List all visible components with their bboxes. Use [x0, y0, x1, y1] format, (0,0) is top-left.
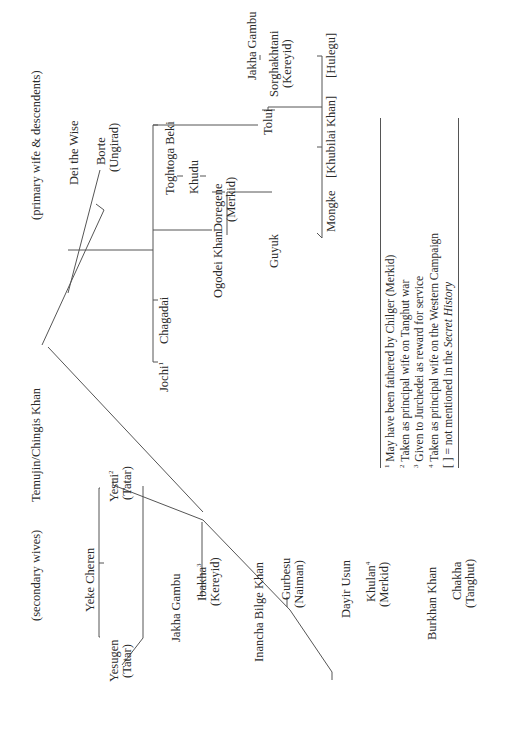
ogodei-wife-grandfather: Toghtoga Beki: [164, 121, 177, 195]
son-jochi: Jochi1: [158, 362, 171, 392]
primary-wife-father: Dei the Wise: [68, 120, 81, 185]
legend: 1 May have been fathered by Chilger (Mer…: [380, 118, 459, 468]
secondary-father-yeke-cheren: Yeke Cheren: [84, 548, 97, 612]
secondary-father-dayir-usun: Dayir Usun: [340, 560, 353, 618]
secondary-wife-yesui-tribe: (Tatar): [121, 466, 134, 500]
legend-item: 4 Taken as principal wife on the Western…: [427, 118, 442, 468]
son-chagadai: Chagadai: [158, 297, 171, 344]
legend-item: 2 Taken as principal wife on Tanghut war: [398, 118, 413, 468]
secondary-wife-yesugen-tribe: (Tatar): [121, 644, 134, 678]
son-tolui: Tolui: [262, 109, 275, 135]
secondary-wife-ibakha-tribe: (Kereyid): [209, 557, 222, 606]
secondary-section-label: (secondary wives): [30, 530, 43, 621]
primary-wife-tribe: (Ungirad): [108, 123, 121, 172]
legend-item-brackets: [ ] = not mentioned in the Secret Histor…: [441, 118, 456, 468]
ogodei-wife-father: Khudu: [188, 160, 201, 194]
ogodei-wife-tribe: (Merkid): [225, 177, 238, 222]
legend-item: 1 May have been fathered by Chilger (Mer…: [383, 118, 398, 468]
secondary-wife-chakha-tribe: (Tanghut): [464, 559, 477, 608]
tolui-wife-father: Jakha Gambu: [246, 12, 259, 80]
genealogy-diagram: Temujin/Chingis Khan (primary wife & des…: [0, 0, 506, 730]
primary-section-label: (primary wife & descendents): [30, 70, 43, 220]
grandson-khubilai: [Khubilai Khan]: [325, 96, 338, 178]
son-ogodei: Ogodei Khan: [212, 231, 225, 298]
secondary-father-jakha-gambu: Jakha Gambu: [170, 574, 183, 642]
secondary-wife-khulan-tribe: (Merkid): [378, 562, 391, 607]
secondary-father-inancha: Inancha Bilge Khan: [253, 562, 266, 662]
grandson-mongke: Mongke: [325, 190, 338, 232]
grandson-guyuk: Guyuk: [268, 234, 281, 268]
grandson-hulegu: [Hulegu]: [325, 33, 338, 78]
secondary-wife-gurbesu-tribe: (Naiman): [293, 560, 306, 608]
root-name: Temujin/Chingis Khan: [30, 388, 43, 502]
secondary-father-burkhan-khan: Burkhan Khan: [426, 567, 439, 640]
tolui-wife-tribe: (Kereyid): [281, 39, 294, 88]
legend-item: 3 Given to Jurchedei as reward for servi…: [412, 118, 427, 468]
